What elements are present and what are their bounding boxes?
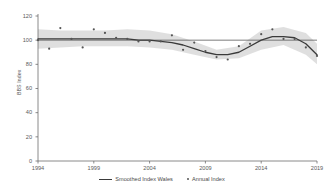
data-point bbox=[238, 45, 240, 47]
legend-dot-icon bbox=[187, 178, 189, 180]
data-point bbox=[182, 49, 184, 51]
data-point bbox=[48, 48, 50, 50]
data-point bbox=[305, 46, 307, 48]
x-axis-tick-label: 2009 bbox=[192, 165, 218, 171]
data-point bbox=[171, 34, 173, 36]
data-point bbox=[227, 58, 229, 60]
legend-label-annual: Annual Index bbox=[192, 176, 225, 182]
data-point bbox=[149, 40, 151, 42]
data-point bbox=[282, 38, 284, 40]
data-point bbox=[126, 38, 128, 40]
legend-item-smoothed: Smoothed Index Wales bbox=[99, 176, 173, 182]
x-axis-tick-label: 1999 bbox=[81, 165, 107, 171]
y-axis-tick-label: 40 bbox=[14, 109, 32, 115]
legend-line-icon bbox=[99, 179, 112, 180]
data-point bbox=[271, 28, 273, 30]
data-point bbox=[260, 33, 262, 35]
y-axis-tick-label: 120 bbox=[14, 13, 32, 19]
data-point bbox=[215, 56, 217, 58]
data-point bbox=[137, 40, 139, 42]
x-axis-tick-label: 1994 bbox=[25, 165, 51, 171]
y-axis-title: BBS Index bbox=[16, 69, 22, 94]
data-point bbox=[93, 28, 95, 30]
data-point bbox=[104, 32, 106, 34]
legend-item-annual: Annual Index bbox=[187, 176, 225, 182]
y-axis-tick-label: 80 bbox=[14, 61, 32, 67]
data-point bbox=[59, 27, 61, 29]
data-point bbox=[249, 43, 251, 45]
data-point bbox=[204, 50, 206, 52]
confidence-band bbox=[38, 27, 317, 64]
data-point bbox=[294, 38, 296, 40]
data-point bbox=[316, 55, 318, 57]
data-point bbox=[193, 41, 195, 43]
y-axis-tick-label: 100 bbox=[14, 37, 32, 43]
data-point bbox=[70, 38, 72, 40]
y-axis-tick-label: 0 bbox=[14, 158, 32, 164]
legend-label-smoothed: Smoothed Index Wales bbox=[115, 176, 173, 182]
chart-legend: Smoothed Index Wales Annual Index bbox=[0, 176, 324, 182]
data-point bbox=[37, 39, 39, 41]
data-point bbox=[82, 46, 84, 48]
data-point bbox=[115, 37, 117, 39]
y-axis-tick-label: 20 bbox=[14, 134, 32, 140]
x-axis-tick-label: 2019 bbox=[304, 165, 324, 171]
chart-container: Smoothed Index Wales Annual Index 020406… bbox=[0, 0, 324, 195]
x-axis-tick-label: 2014 bbox=[248, 165, 274, 171]
x-axis-tick-label: 2004 bbox=[137, 165, 163, 171]
data-point bbox=[160, 40, 162, 42]
